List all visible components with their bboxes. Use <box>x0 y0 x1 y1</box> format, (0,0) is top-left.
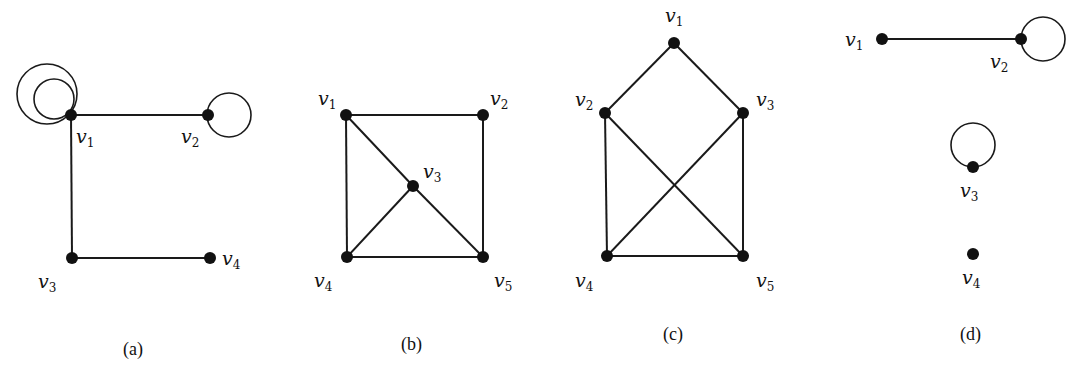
vertex-label-v5: v5 <box>494 269 512 294</box>
vertex-v4 <box>601 250 613 262</box>
vertex-label-v5: v5 <box>756 269 774 294</box>
vertex-label-v2: v2 <box>490 87 508 112</box>
vertex-label-v1: v1 <box>665 4 683 29</box>
vertex-label-v2: v2 <box>575 88 593 113</box>
vertex-v3 <box>967 161 979 173</box>
vertex-label-v3: v3 <box>756 88 774 113</box>
graph-c: v1v2v3v4v5 <box>575 4 774 294</box>
vertex-v3 <box>737 107 749 119</box>
vertex-label-v1: v1 <box>845 28 863 53</box>
vertex-label-v3: v3 <box>38 270 56 295</box>
loop-v2 <box>1021 17 1065 61</box>
graph-d: v1v2v3v4 <box>845 17 1065 291</box>
vertex-label-v4: v4 <box>314 269 333 294</box>
vertex-v1 <box>65 109 77 121</box>
caption-b: (b) <box>401 334 422 355</box>
vertex-v3 <box>66 252 78 264</box>
vertex-v2 <box>202 109 214 121</box>
edge-v2-v4 <box>605 113 607 256</box>
graph-a: v1v2v3v4 <box>17 64 251 295</box>
vertex-v4 <box>967 248 979 260</box>
edge-v3-v5 <box>413 186 483 257</box>
captions-layer: (a) (b) (c) (d) <box>123 324 981 360</box>
vertex-v1 <box>668 37 680 49</box>
edge-v3-v4 <box>347 186 413 257</box>
vertex-v2 <box>477 109 489 121</box>
vertex-v4 <box>204 252 216 264</box>
vertex-label-v2: v2 <box>990 50 1008 75</box>
vertex-label-v1: v1 <box>318 87 336 112</box>
edge-v1-v2 <box>605 43 674 113</box>
graphs-layer: v1v2v3v4v1v2v3v4v5v1v2v3v4v5v1v2v3v4 <box>17 4 1065 295</box>
vertex-label-v4: v4 <box>962 266 981 291</box>
edge-v1-v3 <box>71 115 72 258</box>
vertex-v3 <box>407 180 419 192</box>
edge-v1-v3 <box>346 115 413 186</box>
loop-v3 <box>951 123 995 167</box>
vertex-v1 <box>876 33 888 45</box>
vertex-v5 <box>737 250 749 262</box>
vertex-v2 <box>1015 33 1027 45</box>
graph-figure: v1v2v3v4v1v2v3v4v5v1v2v3v4v5v1v2v3v4 (a)… <box>0 0 1080 380</box>
edge-v1-v3 <box>674 43 743 113</box>
graph-b: v1v2v3v4v5 <box>314 87 512 294</box>
caption-a: (a) <box>123 339 143 360</box>
vertex-v5 <box>477 251 489 263</box>
caption-c: (c) <box>663 324 683 345</box>
caption-d: (d) <box>960 324 981 345</box>
vertex-label-v2: v2 <box>181 125 199 150</box>
vertex-label-v4: v4 <box>222 247 241 272</box>
vertex-v2 <box>599 107 611 119</box>
vertex-label-v1: v1 <box>76 125 94 150</box>
vertex-label-v3: v3 <box>423 160 441 185</box>
vertex-label-v3: v3 <box>960 179 978 204</box>
vertex-v1 <box>340 109 352 121</box>
vertex-label-v4: v4 <box>575 269 594 294</box>
edge-v1-v4 <box>346 115 347 257</box>
vertex-v4 <box>341 251 353 263</box>
